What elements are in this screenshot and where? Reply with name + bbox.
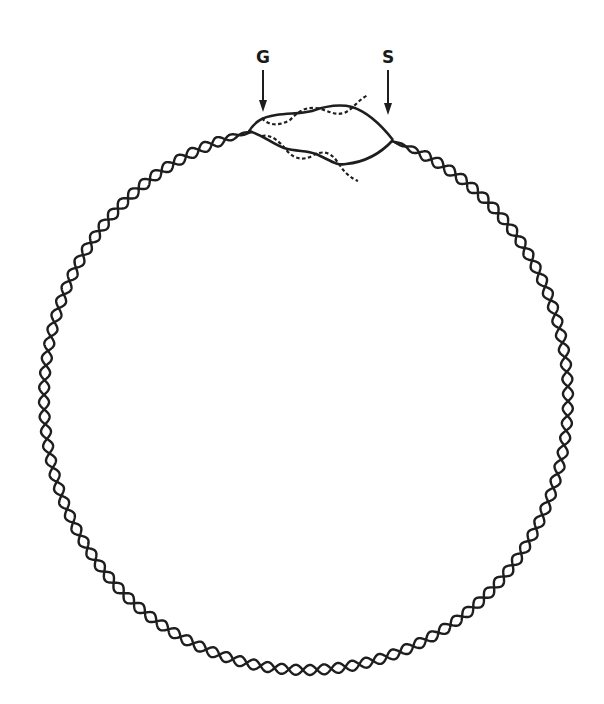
diagram-canvas — [0, 0, 604, 704]
label-S: S — [382, 47, 394, 67]
lower-new-strand — [262, 136, 358, 181]
dna-replication-diagram: G S — [0, 0, 604, 704]
arrow-S-head-icon — [384, 103, 392, 115]
replication-bubble — [248, 95, 393, 181]
label-G: G — [256, 47, 270, 67]
arrow-G-head-icon — [259, 100, 267, 112]
circular-dna-helix — [39, 132, 573, 675]
